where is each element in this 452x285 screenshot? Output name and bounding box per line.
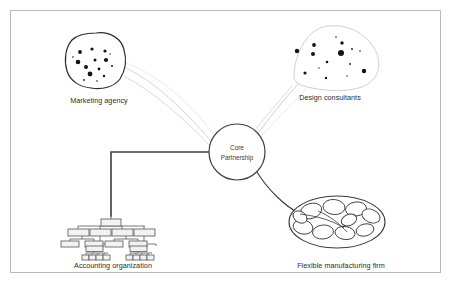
diagram-canvas: Marketing agency Desig: [0, 0, 452, 285]
label-accounting-organization: Accounting organization: [74, 261, 152, 270]
hub-label-line1: Core: [230, 144, 244, 151]
hub-label-line2: Partnership: [221, 154, 254, 162]
label-marketing-agency: Marketing agency: [70, 96, 128, 105]
label-flexible-manufacturing-firm: Flexible manufacturing firm: [297, 261, 385, 270]
node-core-partnership[interactable]: Core Partnership: [209, 124, 265, 180]
label-design-consultants: Design consultants: [299, 93, 361, 102]
hub-circle: [209, 124, 265, 180]
network-diagram: Marketing agency Desig: [0, 0, 452, 285]
